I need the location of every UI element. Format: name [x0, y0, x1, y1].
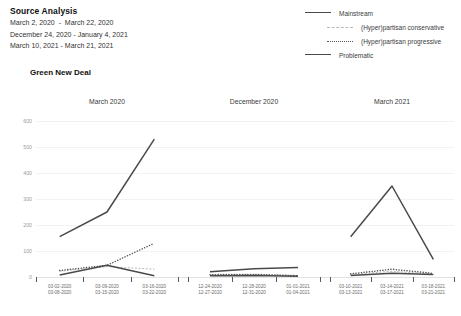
x-axis-tick [371, 277, 372, 282]
panel-title: March 2021 [330, 98, 454, 105]
x-axis-label: 03-14-202103-17-2021 [370, 284, 414, 296]
x-axis-label: 03-02-202003-08-2020 [38, 284, 82, 296]
x-axis-tick [454, 277, 455, 282]
series-line [210, 267, 298, 271]
panel-title: December 2020 [188, 98, 320, 105]
x-axis-label: 12-28-202012-31-2020 [232, 284, 276, 296]
x-axis-label: 03-09-202003-15-2020 [85, 284, 129, 296]
x-axis-tick [83, 277, 84, 282]
x-axis-tick [413, 277, 414, 282]
x-axis-label: 03-16-202003-22-2020 [132, 284, 176, 296]
x-axis-label: 01-01-202101-04-2021 [276, 284, 320, 296]
x-axis-tick [276, 277, 277, 282]
x-axis-tick [131, 277, 132, 282]
x-axis-tick [232, 277, 233, 282]
x-axis-label: 03-10-202103-13-2021 [329, 284, 373, 296]
series-lines [0, 0, 461, 316]
series-line [210, 275, 298, 276]
x-axis-label: 12-24-202012-27-2020 [188, 284, 232, 296]
x-axis-tick [178, 277, 179, 282]
x-axis-label: 03-18-202103-21-2021 [411, 284, 455, 296]
x-axis-tick [188, 277, 189, 282]
series-line [351, 186, 434, 259]
series-line [60, 139, 155, 237]
x-axis-tick [330, 277, 331, 282]
x-axis-tick [320, 277, 321, 282]
screenshot-root: Source Analysis March 2, 2020 - March 22… [0, 0, 461, 316]
x-axis-tick [36, 277, 37, 282]
panel-title: March 2020 [36, 98, 178, 105]
